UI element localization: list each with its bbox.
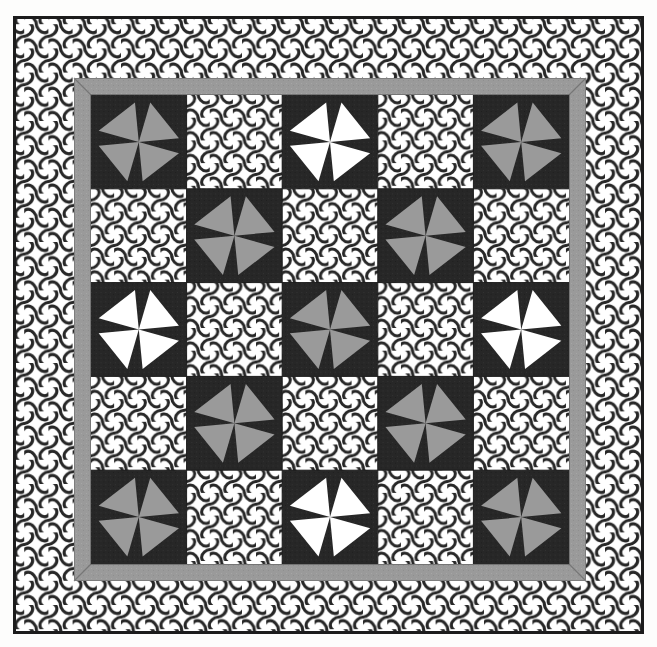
- pinwheel-white-motif: [91, 283, 187, 377]
- quilt-block-pinwheel-gray: [473, 95, 569, 189]
- quilt-block-lattice: [187, 283, 283, 377]
- quilt-block-pinwheel-gray: [187, 376, 283, 470]
- quilt-block-lattice: [187, 470, 283, 564]
- quilt-block-lattice: [473, 189, 569, 283]
- lattice-motif: [187, 95, 283, 189]
- quilt-block-pinwheel-white: [282, 95, 378, 189]
- lattice-motif: [282, 376, 378, 470]
- pinwheel-gray-motif: [473, 470, 569, 564]
- quilt-block-pinwheel-gray: [187, 189, 283, 283]
- lattice-motif: [187, 470, 283, 564]
- pinwheel-gray-motif: [378, 376, 474, 470]
- lattice-motif: [473, 189, 569, 283]
- lattice-motif: [91, 189, 187, 283]
- pinwheel-white-motif: [282, 95, 378, 189]
- block-grid: [91, 95, 569, 564]
- lattice-motif: [91, 376, 187, 470]
- quilt-block-lattice: [378, 283, 474, 377]
- pinwheel-gray-motif: [91, 95, 187, 189]
- pinwheel-gray-motif: [187, 189, 283, 283]
- quilt-block-lattice: [378, 95, 474, 189]
- lattice-motif: [378, 95, 474, 189]
- quilt-block-lattice: [282, 376, 378, 470]
- quilt-block-lattice: [91, 376, 187, 470]
- lattice-motif: [378, 470, 474, 564]
- lattice-motif: [282, 189, 378, 283]
- quilt-block-lattice: [473, 376, 569, 470]
- quilt-block-lattice: [378, 470, 474, 564]
- quilt-block-pinwheel-white: [473, 283, 569, 377]
- pinwheel-white-motif: [282, 470, 378, 564]
- pinwheel-gray-motif: [91, 470, 187, 564]
- quilt-block-pinwheel-white: [282, 470, 378, 564]
- pinwheel-gray-motif: [473, 95, 569, 189]
- lattice-motif: [378, 283, 474, 377]
- quilt-block-pinwheel-gray: [378, 189, 474, 283]
- quilt-illustration: [0, 0, 657, 647]
- lattice-motif: [187, 283, 283, 377]
- pinwheel-white-motif: [473, 283, 569, 377]
- lattice-motif: [473, 376, 569, 470]
- quilt-block-pinwheel-gray: [91, 95, 187, 189]
- quilt-block-pinwheel-gray: [473, 470, 569, 564]
- pinwheel-gray-motif: [282, 283, 378, 377]
- pinwheel-gray-motif: [378, 189, 474, 283]
- quilt-block-lattice: [187, 95, 283, 189]
- quilt-canvas: [0, 0, 657, 647]
- quilt-block-lattice: [91, 189, 187, 283]
- quilt-block-pinwheel-gray: [282, 283, 378, 377]
- quilt-block-pinwheel-gray: [378, 376, 474, 470]
- pinwheel-gray-motif: [187, 376, 283, 470]
- quilt-block-pinwheel-white: [91, 283, 187, 377]
- quilt-block-pinwheel-gray: [91, 470, 187, 564]
- quilt-block-lattice: [282, 189, 378, 283]
